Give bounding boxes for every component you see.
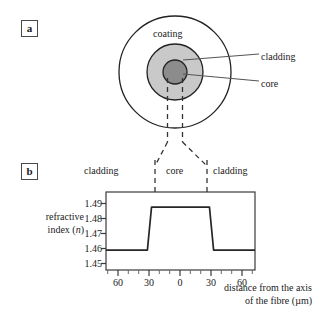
plot-frame	[106, 192, 255, 270]
y-axis-ticks	[101, 204, 106, 264]
x-tick-label-minus30: 30	[138, 277, 160, 288]
refractive-index-plot	[0, 0, 315, 320]
x-axis-major-ticks	[118, 270, 242, 276]
x-axis-title: distance from the axis of the fibre (µm)	[176, 282, 312, 307]
x-tick-label-minus60: 60	[107, 277, 129, 288]
x-axis-title-line1: distance from the axis	[224, 282, 312, 293]
x-axis-title-line2: of the fibre (µm)	[245, 295, 312, 306]
figure-fibre-refractive-index: a coating cladding core b cladding core …	[0, 0, 315, 320]
